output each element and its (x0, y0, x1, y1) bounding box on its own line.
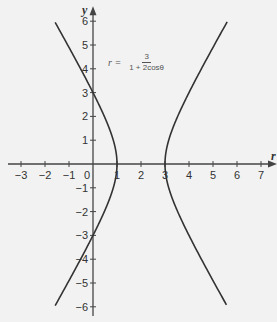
y-tick-label: −1 (75, 182, 88, 194)
equation-fraction: 3 1 + 2cosθ (127, 52, 166, 73)
x-tick-label: −1 (63, 169, 76, 181)
y-tick-label: 2 (82, 110, 88, 122)
y-tick-label: 1 (82, 134, 88, 146)
x-tick-label: 7 (258, 169, 264, 181)
y-tick-label: −3 (75, 229, 88, 241)
x-tick-label: −2 (39, 169, 52, 181)
x-tick-label: 0 (84, 169, 90, 181)
y-tick-label: −5 (75, 277, 88, 289)
x-tick-label: 2 (138, 169, 144, 181)
x-tick-label: 4 (186, 169, 192, 181)
hyperbola-plot: ry−3−2−101234567654321−1−2−3−4−5−6 (0, 0, 277, 322)
y-tick-label: 5 (82, 39, 88, 51)
y-tick-label: 6 (82, 15, 88, 27)
x-tick-label: 6 (234, 169, 240, 181)
x-tick-label: −3 (15, 169, 28, 181)
equation-numerator: 3 (142, 52, 150, 63)
y-tick-label: −2 (75, 206, 88, 218)
y-axis-arrow-icon (90, 6, 97, 15)
y-tick-label: 3 (82, 87, 88, 99)
x-tick-label: 5 (210, 169, 216, 181)
y-tick-label: −6 (75, 301, 88, 313)
equation-lhs: r = (108, 57, 121, 68)
x-axis-label: r (271, 149, 276, 163)
y-tick-label: −4 (75, 253, 88, 265)
equation-label: r = 3 1 + 2cosθ (108, 52, 166, 73)
chart-container: ry−3−2−101234567654321−1−2−3−4−5−6 r = 3… (0, 0, 277, 322)
equation-denominator: 1 + 2cosθ (127, 63, 166, 73)
